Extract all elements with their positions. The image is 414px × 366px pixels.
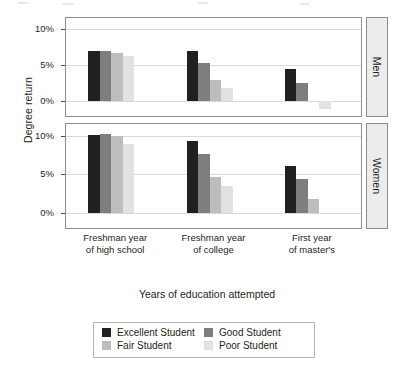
bar: [123, 56, 135, 101]
bar: [221, 88, 233, 102]
bar: [198, 154, 210, 213]
bar: [123, 144, 135, 213]
bar: [210, 177, 222, 212]
bar: [210, 80, 222, 101]
x-category-line: Freshman year: [60, 232, 170, 244]
gridline-0: [66, 101, 361, 102]
bar: [285, 166, 297, 212]
y-tick-mark: [61, 174, 65, 175]
gridline-10: [66, 29, 361, 30]
legend-item: Excellent Student: [102, 327, 204, 338]
x-category-line: of college: [159, 244, 269, 256]
legend-item: Poor Student: [204, 340, 306, 351]
x-category-label: Freshman yearof college: [159, 232, 269, 255]
legend-grid: Excellent StudentGood StudentFair Studen…: [102, 327, 306, 351]
x-category-line: of master's: [257, 244, 367, 256]
y-tick-label: 10%: [8, 23, 54, 34]
bar: [187, 141, 199, 213]
scan-artifact: [300, 3, 309, 5]
bar: [221, 186, 233, 212]
panel-women: [65, 123, 362, 229]
plot-area-women: [66, 124, 361, 228]
bar: [111, 53, 123, 102]
legend-swatch-icon: [204, 328, 213, 337]
plot-area-men: [66, 18, 361, 116]
legend-label: Excellent Student: [117, 327, 195, 338]
legend-label: Fair Student: [117, 340, 171, 351]
x-category-label: First yearof master's: [257, 232, 367, 255]
strip-label-men: Men: [366, 17, 388, 117]
bar: [88, 135, 100, 213]
y-tick-mark: [61, 101, 65, 102]
bar: [198, 63, 210, 101]
x-category-line: First year: [257, 232, 367, 244]
strip-women-text: Women: [371, 158, 383, 194]
legend-swatch-icon: [204, 341, 213, 350]
strip-men-text: Men: [371, 57, 383, 77]
x-axis-title: Years of education attempted: [0, 288, 414, 300]
chart-figure: Degree return Men Women 0%5%10% 0%5%10% …: [0, 0, 414, 366]
bar: [88, 51, 100, 102]
y-tick-label: 0%: [8, 207, 54, 218]
y-tick-label: 5%: [8, 168, 54, 179]
legend-swatch-icon: [102, 328, 111, 337]
bar: [100, 51, 112, 102]
chart-legend: Excellent StudentGood StudentFair Studen…: [93, 322, 315, 358]
y-tick-label: 0%: [8, 95, 54, 106]
strip-label-women: Women: [366, 123, 388, 229]
scan-artifact: [62, 3, 74, 5]
x-category-line: Freshman year: [159, 232, 269, 244]
gridline-0: [66, 213, 361, 214]
x-category-line: of high school: [60, 244, 170, 256]
bar: [100, 134, 112, 213]
x-category-label: Freshman yearof high school: [60, 232, 170, 255]
bar: [111, 136, 123, 212]
legend-label: Poor Student: [219, 340, 277, 351]
bar: [296, 83, 308, 101]
y-tick-mark: [61, 29, 65, 30]
bar: [319, 101, 331, 109]
scan-artifact: [18, 2, 28, 4]
scan-artifact: [198, 2, 208, 4]
legend-swatch-icon: [102, 341, 111, 350]
bar: [308, 199, 320, 212]
y-tick-label: 5%: [8, 59, 54, 70]
bar: [296, 179, 308, 213]
bar: [285, 69, 297, 102]
bar: [187, 51, 199, 101]
legend-label: Good Student: [219, 327, 281, 338]
y-tick-label: 10%: [8, 130, 54, 141]
y-tick-mark: [61, 136, 65, 137]
panel-men: [65, 17, 362, 117]
legend-item: Fair Student: [102, 340, 204, 351]
legend-item: Good Student: [204, 327, 306, 338]
y-tick-mark: [61, 65, 65, 66]
y-tick-mark: [61, 213, 65, 214]
